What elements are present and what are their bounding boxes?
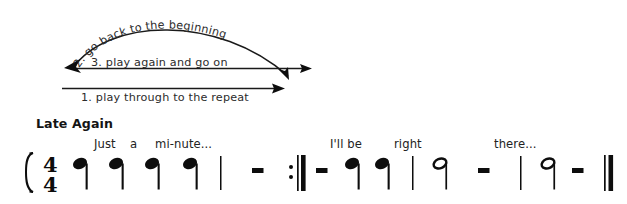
annotation-play-again-label: 3. play again and go on bbox=[91, 56, 228, 69]
song-title: Late Again bbox=[36, 116, 113, 131]
rest bbox=[316, 168, 328, 173]
lyric-minute: mi-nute... bbox=[155, 137, 212, 151]
time-signature: 4 4 bbox=[43, 152, 58, 197]
lyric-a: a bbox=[130, 137, 137, 151]
quarter-note bbox=[181, 156, 199, 190]
quarter-note bbox=[373, 156, 391, 190]
time-signature-denominator: 4 bbox=[43, 172, 58, 197]
music-figure: 2. go back to the beginning 3. play agai… bbox=[0, 0, 627, 204]
barline bbox=[412, 156, 414, 190]
quarter-note bbox=[143, 156, 161, 190]
repeat-end-barline bbox=[289, 155, 306, 191]
system-brace-icon bbox=[26, 153, 33, 192]
rest bbox=[478, 168, 490, 173]
quarter-note bbox=[107, 156, 125, 190]
repeat-instruction-diagram: 2. go back to the beginning 3. play agai… bbox=[0, 0, 627, 115]
lyric-ill-be: I'll be bbox=[330, 137, 362, 151]
quarter-note bbox=[343, 156, 361, 190]
barline bbox=[520, 156, 522, 190]
barline bbox=[220, 156, 222, 190]
annotation-play-through-label: 1. play through to the repeat bbox=[81, 91, 249, 104]
staff-line: 4 4 bbox=[0, 150, 627, 204]
rest bbox=[572, 168, 584, 173]
half-note bbox=[540, 157, 556, 190]
lyric-just: Just bbox=[94, 137, 116, 151]
final-double-barline bbox=[604, 155, 613, 191]
lyric-right: right bbox=[394, 137, 422, 151]
quarter-note bbox=[71, 156, 89, 190]
lyric-there: there... bbox=[494, 137, 537, 151]
half-note bbox=[432, 157, 448, 190]
rest bbox=[252, 168, 264, 173]
